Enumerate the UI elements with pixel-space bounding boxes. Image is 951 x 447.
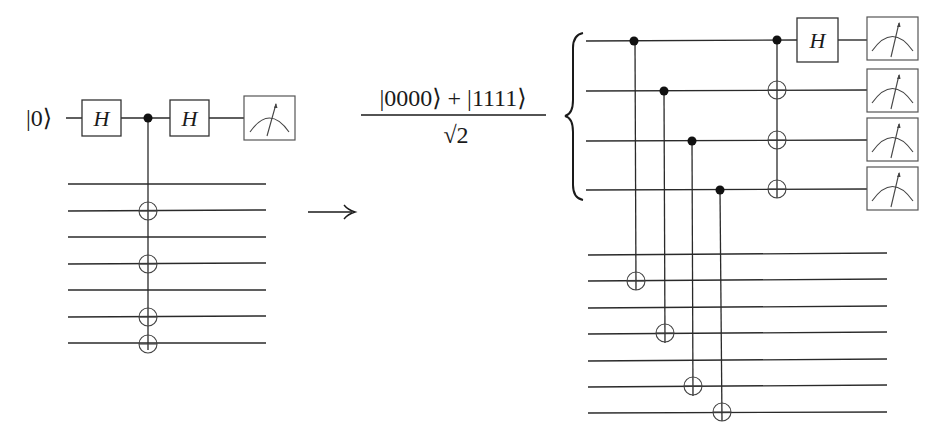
left-brace bbox=[565, 33, 583, 200]
ancilla-wire bbox=[588, 412, 887, 413]
state-numerator: |0000⟩ + |1111⟩ bbox=[379, 85, 526, 111]
gate-label: H bbox=[93, 106, 111, 131]
measurement-meter-icon bbox=[867, 69, 918, 112]
qubit-wire bbox=[586, 140, 867, 141]
ancilla-wire bbox=[68, 263, 266, 264]
measurement-meter-icon bbox=[244, 96, 295, 140]
control-dot-icon bbox=[716, 186, 725, 195]
hadamard-gate-2: H bbox=[170, 100, 209, 136]
measurement-meter-icon bbox=[867, 167, 918, 210]
ancilla-wire bbox=[588, 385, 887, 387]
gate-label: H bbox=[181, 106, 199, 131]
state-denominator: √2 bbox=[443, 122, 468, 148]
measurement-meter-icon bbox=[867, 17, 918, 60]
hadamard-gate-1: H bbox=[82, 100, 121, 136]
control-dot-icon bbox=[688, 137, 697, 146]
control-dot-icon bbox=[773, 36, 782, 45]
control-dot-icon bbox=[660, 87, 669, 96]
qubit-wire bbox=[586, 40, 797, 41]
ancilla-wire bbox=[588, 359, 887, 361]
right-ancilla-wires bbox=[588, 253, 887, 413]
control-dot-icon bbox=[144, 114, 153, 123]
hadamard-gate-final: H bbox=[797, 18, 838, 62]
left-circuit: |0⟩ bbox=[26, 96, 295, 353]
qubit-wire bbox=[586, 189, 867, 190]
ancilla-wire bbox=[588, 332, 887, 334]
control-dot-icon bbox=[630, 37, 639, 46]
cnot-line-1 bbox=[635, 41, 636, 290]
right-circuit: H bbox=[586, 17, 918, 421]
ancilla-wire bbox=[588, 306, 887, 308]
transform-arrow bbox=[308, 205, 355, 219]
ghz-state-expression: |0000⟩ + |1111⟩ √2 bbox=[361, 85, 546, 148]
ancilla-wire bbox=[68, 210, 266, 211]
ancilla-wires bbox=[68, 184, 266, 343]
ancilla-wire bbox=[588, 253, 887, 255]
qubit-wire bbox=[586, 90, 867, 91]
cnot-line-2 bbox=[664, 91, 665, 343]
gate-label: H bbox=[809, 28, 827, 53]
quantum-circuit-diagram: |0⟩ bbox=[0, 0, 951, 447]
measurement-meter-icon bbox=[867, 118, 918, 161]
cnot-line-3 bbox=[692, 141, 693, 396]
ancilla-wire bbox=[68, 316, 266, 317]
input-ket-label: |0⟩ bbox=[26, 105, 52, 131]
